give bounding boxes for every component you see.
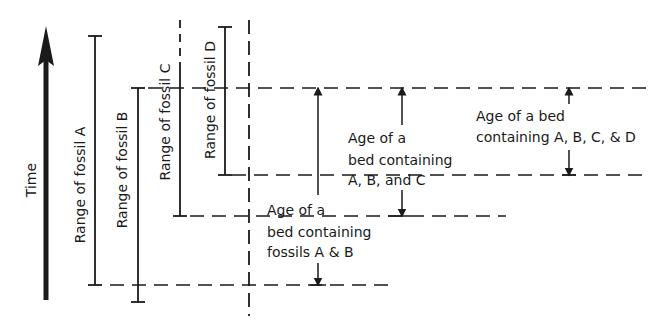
annotation-ab-line1: Age of a bbox=[267, 202, 325, 218]
annotation-abcd-line1: Age of a bed bbox=[476, 108, 565, 124]
annotation-ab-line2: bed containing bbox=[267, 224, 371, 240]
annotation-abcd-line2: containing A, B, C, & D bbox=[476, 129, 636, 145]
time-axis-label: Time bbox=[23, 163, 39, 198]
range-bar-a bbox=[88, 36, 102, 285]
range-label-d: Range of fossil D bbox=[202, 41, 218, 159]
range-label-a: Range of fossil A bbox=[72, 126, 88, 243]
time-arrow-head-icon bbox=[38, 26, 54, 66]
annotation-age-abcd: Age of a bed containing A, B, C, & D bbox=[476, 91, 636, 175]
annotation-age-abc: Age of a bed containing A, B, and C bbox=[348, 91, 452, 216]
annotation-abc-line3: A, B, and C bbox=[348, 172, 426, 188]
range-label-b: Range of fossil B bbox=[114, 112, 130, 229]
range-label-c: Range of fossil C bbox=[157, 63, 173, 180]
range-bar-d bbox=[218, 27, 232, 175]
annotation-abc-line2: bed containing bbox=[348, 152, 452, 168]
time-axis: Time bbox=[23, 26, 54, 300]
range-bar-c bbox=[173, 20, 187, 216]
annotation-abc-line1: Age of a bbox=[348, 130, 406, 146]
annotation-age-ab: Age of a bed containing fossils A & B bbox=[267, 91, 371, 285]
fossil-range-diagram: Time Range of fossil A Range of fossil B… bbox=[0, 0, 669, 334]
range-bar-b bbox=[131, 88, 145, 302]
annotation-ab-line3: fossils A & B bbox=[267, 244, 354, 260]
